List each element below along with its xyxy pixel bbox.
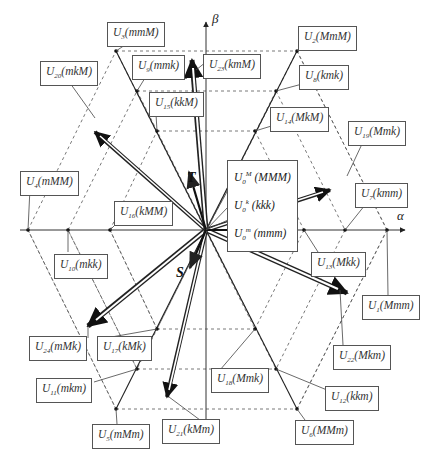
vector-label-t: T (187, 170, 196, 186)
vector-label-u22: U22(Mkm) (333, 345, 391, 370)
vector-label-u18: U18(Mmk) (211, 368, 269, 393)
vector-label-u10: U10(mkk) (54, 254, 108, 279)
vector-label-u7: U7(kmm) (355, 183, 408, 208)
vector-label-u24: U24(mMk) (29, 336, 87, 361)
zero-vector-M: U0M (MMM) (234, 164, 291, 192)
vector-label-u21: U21(kMm) (162, 419, 220, 444)
zero-vector-k: U0k (kkk) (234, 192, 291, 220)
vector-label-u12: U12(kkm) (325, 386, 379, 411)
beta-axis-label: β (212, 11, 218, 27)
vector-label-u3: U3(mmM) (107, 22, 165, 47)
vector-label-u15: U15(kkM) (149, 92, 204, 117)
vector-label-u6: U6(MMm) (295, 420, 354, 445)
vector-label-u14: U14(MkM) (270, 107, 329, 132)
vector-label-u20: U20(mkM) (40, 61, 98, 86)
zero-vector-box: U0M (MMM) U0k (kkk) U0m (mmm) (227, 160, 298, 252)
vector-label-u1: U1(Mmm) (362, 295, 420, 320)
vector-label-u2: U2(MmM) (298, 26, 357, 51)
vector-label-u13: U13(Mkk) (311, 252, 366, 277)
vector-label-u5: U5(mMm) (92, 424, 150, 449)
vector-label-u23: U23(kmM) (203, 54, 261, 79)
vector-label-u4: U4(mMM) (20, 171, 79, 196)
zero-vector-m: U0m (mmm) (234, 220, 291, 248)
vector-label-u17: U17(kMk) (97, 336, 152, 361)
alpha-axis-label: α (397, 208, 404, 224)
vector-label-u19: U19(Mmk) (348, 121, 406, 146)
vector-label-u8: U8(kmk) (299, 65, 349, 90)
vector-label-s: S (176, 265, 184, 281)
vector-label-u16: U16(kMM) (114, 201, 173, 226)
vector-label-u11: U11(mkm) (36, 378, 92, 403)
vector-label-u9: U9(mmk) (132, 55, 185, 80)
